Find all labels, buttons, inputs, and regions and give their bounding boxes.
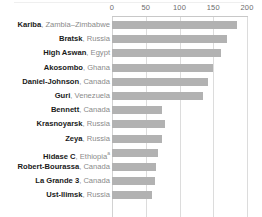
bar bbox=[112, 149, 158, 157]
dam-country: Zambia–Zimbabwe bbox=[45, 20, 110, 29]
bar bbox=[112, 49, 221, 57]
dam-name: Ust-Ilimsk bbox=[46, 190, 82, 199]
bar bbox=[112, 21, 237, 29]
bar-row: Zeya, Russia bbox=[0, 132, 262, 146]
bar-row-label: La Grande 3, Canada bbox=[35, 174, 110, 188]
dam-name: Krasnoyarsk bbox=[37, 119, 83, 128]
dam-country: Ghana bbox=[87, 63, 110, 72]
bar-row: Hidase C, Ethiopiaa bbox=[0, 146, 262, 160]
bar bbox=[112, 135, 162, 143]
bar-row-label: Bratsk, Russia bbox=[59, 32, 110, 46]
bar-row-label: Robert-Bourassa, Canada bbox=[18, 160, 110, 174]
dam-name: La Grande 3 bbox=[35, 176, 79, 185]
x-axis-tick-label: 0 bbox=[110, 3, 114, 12]
bar-row-label: Bennett, Canada bbox=[51, 103, 110, 117]
dam-country: Venezuela bbox=[75, 91, 110, 100]
bar-row-group: Kariba, Zambia–ZimbabweBratsk, RussiaHig… bbox=[0, 18, 262, 202]
bar-row-label: Guri, Venezuela bbox=[55, 89, 110, 103]
bar-row-label: Daniel-Johnson, Canada bbox=[22, 75, 110, 89]
dam-country: Russia bbox=[87, 119, 110, 128]
dam-country: Ethiopia bbox=[80, 151, 107, 160]
dam-country: Canada bbox=[83, 105, 110, 114]
bar-row-label: Kariba, Zambia–Zimbabwe bbox=[18, 18, 110, 32]
bar-row-label: Zeya, Russia bbox=[65, 132, 110, 146]
dam-name: Guri bbox=[55, 91, 71, 100]
bar bbox=[112, 163, 156, 171]
dam-name: Akosombo bbox=[44, 63, 83, 72]
bar-row: Bratsk, Russia bbox=[0, 32, 262, 46]
bar-row: Guri, Venezuela bbox=[0, 89, 262, 103]
bar bbox=[112, 35, 227, 43]
dam-name: Robert-Bourassa bbox=[18, 162, 80, 171]
dam-country: Canada bbox=[83, 176, 110, 185]
bar-row: Akosombo, Ghana bbox=[0, 61, 262, 75]
bar-row: High Aswan, Egypt bbox=[0, 46, 262, 60]
bar-row: Daniel-Johnson, Canada bbox=[0, 75, 262, 89]
bar bbox=[112, 120, 165, 128]
dam-country: Canada bbox=[83, 162, 110, 171]
dam-country: Egypt bbox=[91, 48, 110, 57]
bar-row: Robert-Bourassa, Canada bbox=[0, 160, 262, 174]
bar-row: Ust-Ilimsk, Russia bbox=[0, 188, 262, 202]
x-axis-tick-label: 100 bbox=[173, 3, 186, 12]
dam-name: Bennett bbox=[51, 105, 79, 114]
dam-name: Zeya bbox=[65, 134, 82, 143]
dam-country: Canada bbox=[83, 77, 110, 86]
bar-row-label: Krasnoyarsk, Russia bbox=[37, 117, 110, 131]
x-axis-tick-label: 50 bbox=[141, 3, 150, 12]
dam-country: Russia bbox=[87, 34, 110, 43]
bar bbox=[112, 191, 152, 199]
dam-name: Daniel-Johnson bbox=[22, 77, 79, 86]
horizontal-bar-chart: 050100150200 Kariba, Zambia–ZimbabweBrat… bbox=[0, 0, 262, 217]
bar bbox=[112, 92, 203, 100]
bar bbox=[112, 177, 155, 185]
dam-name: Kariba bbox=[18, 20, 42, 29]
bar-row-label: Hidase C, Ethiopiaa bbox=[43, 146, 110, 160]
dam-country: Russia bbox=[87, 190, 110, 199]
bar-row: La Grande 3, Canada bbox=[0, 174, 262, 188]
bar bbox=[112, 64, 213, 72]
x-axis-tick-label: 200 bbox=[240, 3, 253, 12]
bar bbox=[112, 106, 162, 114]
dam-name: Hidase C bbox=[43, 151, 76, 160]
bar-row: Bennett, Canada bbox=[0, 103, 262, 117]
bar bbox=[112, 78, 208, 86]
dam-name: High Aswan bbox=[43, 48, 86, 57]
dam-name: Bratsk bbox=[59, 34, 83, 43]
x-axis-tick-label: 150 bbox=[207, 3, 220, 12]
bar-row-label: Akosombo, Ghana bbox=[44, 61, 110, 75]
bar-row: Kariba, Zambia–Zimbabwe bbox=[0, 18, 262, 32]
bar-row: Krasnoyarsk, Russia bbox=[0, 117, 262, 131]
bar-row-label: High Aswan, Egypt bbox=[43, 46, 110, 60]
dam-country: Russia bbox=[87, 134, 110, 143]
bar-row-label: Ust-Ilimsk, Russia bbox=[46, 188, 110, 202]
footnote-marker: a bbox=[107, 150, 110, 156]
